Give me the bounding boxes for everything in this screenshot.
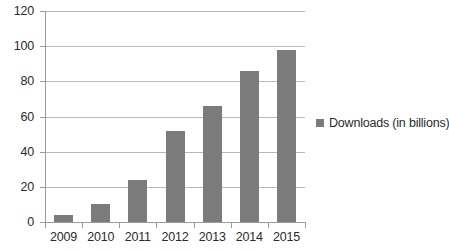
y-axis-tick-label: 100 xyxy=(0,40,34,53)
x-axis-tick xyxy=(268,223,269,228)
x-axis-line xyxy=(45,222,306,223)
y-axis-tick-label: 60 xyxy=(0,111,34,124)
bar xyxy=(203,106,222,222)
x-axis-tick xyxy=(45,223,46,228)
y-axis-tick-label: 80 xyxy=(0,75,34,88)
y-axis-tick-label: 120 xyxy=(0,5,34,18)
bar xyxy=(91,204,110,222)
x-axis-tick xyxy=(194,223,195,228)
x-axis-tick xyxy=(231,223,232,228)
x-axis-tick-label: 2015 xyxy=(264,231,308,244)
bar xyxy=(166,131,185,222)
legend-label-downloads: Downloads (in billions) xyxy=(329,117,449,130)
y-axis-tick-label: 40 xyxy=(0,146,34,159)
bars-layer xyxy=(45,11,305,222)
legend-swatch-downloads xyxy=(316,119,324,127)
x-axis-tick xyxy=(119,223,120,228)
bar xyxy=(54,215,73,222)
y-axis-tick-label: 0 xyxy=(0,216,34,229)
bar xyxy=(277,50,296,222)
x-axis-tick xyxy=(305,223,306,228)
bar xyxy=(128,180,147,222)
y-axis-tick-label: 20 xyxy=(0,181,34,194)
x-axis-tick xyxy=(82,223,83,228)
x-axis-tick xyxy=(156,223,157,228)
chart-legend: Downloads (in billions) xyxy=(316,117,449,130)
bar xyxy=(240,71,259,222)
